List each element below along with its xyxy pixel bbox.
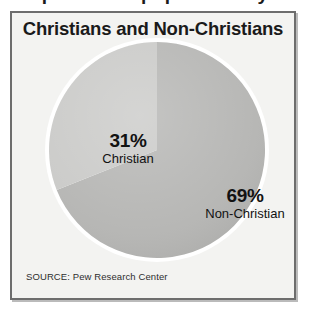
clipped-headline-text: percent of population by [0,0,310,5]
pie-label-non-christian-value: 69% [177,186,296,206]
pie-label-christian: 31% Christian [73,131,183,167]
clipped-headline-strip: percent of population by [0,0,310,9]
pie-label-non-christian: 69% Non-Christian [177,186,296,222]
pie-chart: 31% Christian 69% Non-Christian [25,36,281,262]
source-attribution: SOURCE: Pew Research Center [26,271,168,282]
chart-card: Christians and Non-Christians 31% Christ… [10,11,296,300]
pie-label-christian-value: 31% [73,131,183,151]
pie-label-christian-name: Christian [73,151,183,167]
pie-label-non-christian-name: Non-Christian [177,206,296,222]
